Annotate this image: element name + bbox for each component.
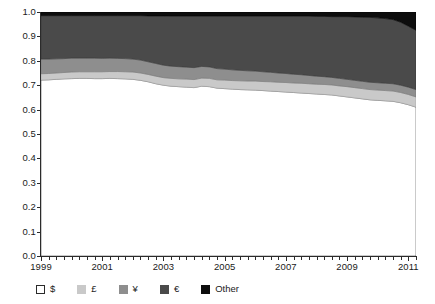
legend-label: $ (50, 284, 55, 294)
legend-item-dark-gray[interactable]: € (160, 284, 179, 294)
plot-svg (41, 12, 416, 256)
y-tick-label: 1.0 (2, 7, 36, 17)
y-tick-label: 0.4 (2, 153, 36, 163)
x-tick-mark (240, 257, 241, 260)
x-tick-mark (263, 257, 264, 260)
x-tick-mark (133, 257, 134, 260)
y-tick-mark (37, 134, 40, 135)
y-tick-mark (37, 183, 40, 184)
y-tick-label: 0.9 (2, 31, 36, 41)
x-tick-mark (378, 257, 379, 260)
x-tick-mark (209, 257, 210, 260)
x-tick-mark (408, 257, 409, 261)
x-tick-mark (186, 257, 187, 260)
area-series-dollar (41, 78, 416, 256)
x-tick-mark (309, 257, 310, 260)
x-axis-tick-labels: 1999200120032005200720092011 (0, 261, 435, 275)
x-tick-mark (286, 257, 287, 261)
x-tick-label: 2011 (398, 261, 419, 272)
white-swatch-icon (36, 285, 45, 294)
x-tick-mark (416, 257, 417, 260)
y-tick-mark (37, 12, 40, 13)
x-tick-mark (225, 257, 226, 261)
x-tick-mark (370, 257, 371, 260)
x-tick-mark (278, 257, 279, 260)
y-tick-mark (37, 110, 40, 111)
x-axis-line (40, 256, 417, 257)
y-tick-label: 0.6 (2, 105, 36, 115)
x-tick-mark (385, 257, 386, 260)
y-tick-label: 0.0 (2, 251, 36, 261)
plot-area (41, 12, 416, 256)
x-tick-mark (87, 257, 88, 260)
y-tick-mark (37, 85, 40, 86)
x-tick-mark (140, 257, 141, 260)
x-tick-label: 2003 (153, 261, 175, 272)
light-gray-swatch-icon (77, 285, 86, 294)
legend-item-white[interactable]: $ (36, 284, 55, 294)
x-tick-mark (232, 257, 233, 260)
y-tick-mark (37, 61, 40, 62)
legend-label: Other (215, 284, 239, 294)
x-tick-mark (179, 257, 180, 260)
x-tick-mark (271, 257, 272, 260)
black-swatch-icon (201, 285, 210, 294)
x-tick-mark (79, 257, 80, 260)
y-axis-tick-labels: 0.00.10.20.30.40.50.60.70.80.91.0 (0, 0, 36, 304)
x-tick-mark (95, 257, 96, 260)
dark-gray-swatch-icon (160, 285, 169, 294)
x-tick-mark (324, 257, 325, 260)
y-tick-mark (37, 207, 40, 208)
x-tick-mark (393, 257, 394, 260)
x-tick-mark (156, 257, 157, 260)
x-tick-mark (56, 257, 57, 260)
y-tick-mark (37, 256, 40, 257)
y-tick-mark (37, 232, 40, 233)
x-tick-mark (362, 257, 363, 260)
x-tick-mark (110, 257, 111, 260)
y-tick-label: 0.1 (2, 227, 36, 237)
x-tick-mark (72, 257, 73, 260)
legend-label: £ (91, 284, 96, 294)
x-tick-mark (171, 257, 172, 260)
legend-label: ¥ (133, 284, 138, 294)
x-tick-mark (332, 257, 333, 260)
legend-item-black[interactable]: Other (201, 284, 239, 294)
stacked-area-chart: 0.00.10.20.30.40.50.60.70.80.91.0 199920… (0, 0, 435, 304)
x-tick-mark (125, 257, 126, 260)
x-tick-mark (148, 257, 149, 260)
x-tick-mark (248, 257, 249, 260)
y-tick-label: 0.3 (2, 178, 36, 188)
x-tick-mark (347, 257, 348, 261)
x-tick-mark (118, 257, 119, 260)
x-tick-mark (255, 257, 256, 260)
x-tick-label: 2001 (91, 261, 113, 272)
x-tick-mark (401, 257, 402, 260)
x-tick-mark (355, 257, 356, 260)
x-tick-mark (202, 257, 203, 260)
y-tick-label: 0.8 (2, 56, 36, 66)
x-tick-mark (217, 257, 218, 260)
chart-legend: $£¥€Other (36, 281, 261, 297)
legend-label: € (174, 284, 179, 294)
legend-item-medium-gray[interactable]: ¥ (119, 284, 138, 294)
y-tick-label: 0.2 (2, 202, 36, 212)
y-axis-line (40, 12, 41, 257)
x-tick-mark (64, 257, 65, 260)
y-tick-mark (37, 36, 40, 37)
x-tick-label: 2009 (336, 261, 358, 272)
x-tick-mark (317, 257, 318, 260)
x-tick-mark (301, 257, 302, 260)
x-tick-label: 1999 (30, 261, 52, 272)
medium-gray-swatch-icon (119, 285, 128, 294)
x-tick-mark (102, 257, 103, 261)
x-tick-mark (163, 257, 164, 261)
legend-item-light-gray[interactable]: £ (77, 284, 96, 294)
y-tick-label: 0.7 (2, 80, 36, 90)
x-tick-mark (194, 257, 195, 260)
x-tick-label: 2005 (214, 261, 236, 272)
x-tick-mark (339, 257, 340, 260)
x-tick-label: 2007 (275, 261, 297, 272)
y-tick-label: 0.5 (2, 129, 36, 139)
x-tick-mark (49, 257, 50, 260)
